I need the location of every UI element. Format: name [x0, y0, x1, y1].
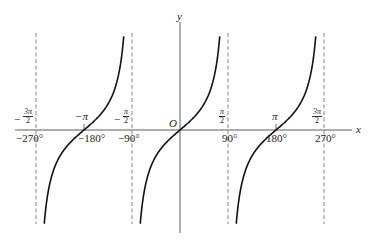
tick-label-minus-180-deg: −180° [78, 133, 105, 144]
tick-label-270-deg: 270° [315, 133, 336, 144]
minus-sign: − [114, 113, 120, 125]
x-axis-label: x [356, 124, 361, 135]
origin-label: O [169, 118, 177, 129]
minus-sign: − [14, 113, 20, 125]
tick-label-minus-90-deg: −90° [118, 133, 140, 144]
y-axis-label: y [177, 11, 182, 22]
tick-label-minus-pi: −π [75, 111, 88, 122]
tick-label-minus-270-deg: −270° [16, 133, 43, 144]
tick-label-pi: π [272, 111, 278, 122]
tick-label-minus-pi-over-2: π 2 [123, 108, 129, 125]
tick-label-minus-3pi-over-2: 3π 2 [23, 108, 33, 125]
tick-label-3pi-over-2: 3π 2 [312, 108, 322, 125]
tick-label-90-deg: 90° [222, 133, 237, 144]
tick-label-180-deg: 180° [266, 133, 287, 144]
tick-label-pi-over-2: π 2 [219, 108, 225, 125]
